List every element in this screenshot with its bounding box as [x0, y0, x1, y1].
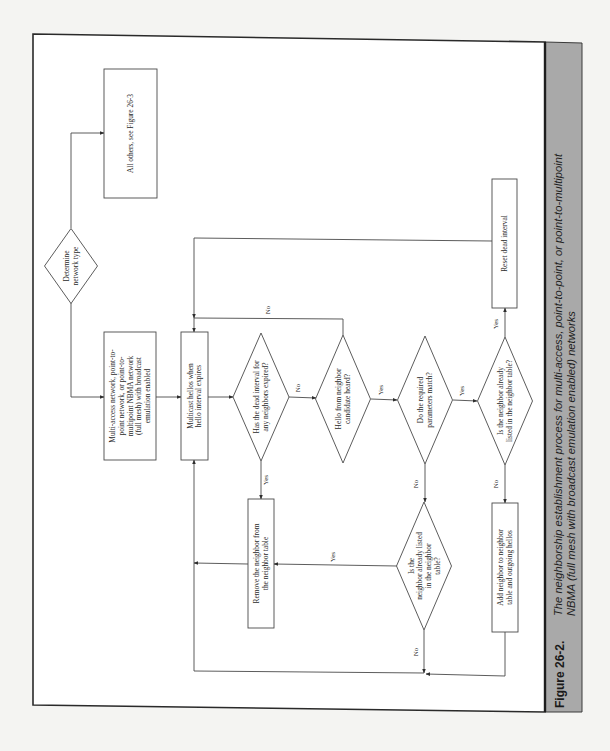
flowchart-figure: Figure 26-2. The neighborship establishm… [0, 0, 610, 751]
node-label-line: emulation enabled [143, 369, 152, 424]
node-label-line: any neighbors expired? [261, 363, 270, 432]
multicast-hellos-box: Multicast hellos whenhello interval expi… [181, 332, 208, 460]
edge-label: No [492, 479, 500, 488]
edge-label: Yes [377, 385, 385, 395]
node-label-line: table? [433, 557, 442, 575]
edge-label: Yes [458, 386, 466, 396]
edge-label: No [294, 383, 302, 392]
caption-line-1: The neighborship establishment process f… [552, 153, 564, 616]
network-type-box: Multi-access network, point-to-point net… [104, 332, 156, 460]
caption-line-2: NBMA (full mesh with broadcast emulation… [565, 311, 577, 616]
node-label-line: All others, see Figure 26-3 [126, 94, 135, 173]
all-others-box: All others, see Figure 26-3 [104, 69, 157, 198]
node-label-line: the neighbor table [261, 536, 270, 590]
remove-neighbor-box: Remove the neighbor fromthe neighbor tab… [248, 499, 274, 628]
reset-dead-interval-box: Reset dead interval [492, 179, 517, 308]
node-label-line: table and outgoing hellos [505, 530, 514, 605]
node-label-line: parameters match? [425, 372, 434, 428]
edge-label: Yes [262, 475, 270, 485]
node-label-line: hello interval expires [194, 365, 203, 428]
edge-label: Yes [492, 319, 500, 329]
edge-label: Yes [329, 552, 337, 562]
figure-number: Figure 26-2. [553, 641, 567, 708]
edge-label: No [264, 305, 272, 314]
edge-label: No [412, 479, 420, 488]
node-label-line: candidate heard? [343, 374, 352, 424]
add-neighbor-box: Add neighbor to neighbortable and outgoi… [492, 503, 518, 632]
node-label-line: Reset dead interval [500, 215, 509, 272]
edge-label: No [412, 647, 420, 656]
node-label-line: network type [71, 246, 80, 286]
node-label-line: listed in the neighbor table? [505, 360, 514, 442]
